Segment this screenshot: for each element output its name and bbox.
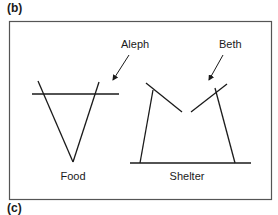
diagram-canvas: Food Shelter Aleph Beth xyxy=(0,0,278,215)
panel-label-c: (c) xyxy=(7,202,22,214)
shelter-right-wall xyxy=(215,88,235,163)
shelter-figure xyxy=(130,83,251,163)
beth-arrow-icon xyxy=(209,55,223,80)
food-label: Food xyxy=(60,170,85,182)
food-left-leg xyxy=(38,81,73,162)
shelter-right-roof xyxy=(191,84,227,112)
shelter-label: Shelter xyxy=(170,170,205,182)
food-figure xyxy=(32,81,119,162)
aleph-label: Aleph xyxy=(121,38,149,50)
shelter-left-wall xyxy=(140,90,153,163)
aleph-arrow-icon xyxy=(113,55,129,80)
beth-label: Beth xyxy=(219,38,242,50)
